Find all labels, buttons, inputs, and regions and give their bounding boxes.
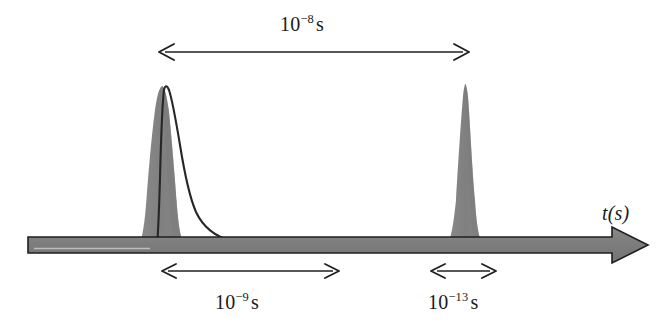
interval-pulse-width-label: 10−13s xyxy=(428,292,478,312)
first-pulse-outline-curve xyxy=(157,86,320,245)
interval-separation-label: 10−8s xyxy=(280,14,324,34)
interval-separation-arrow xyxy=(159,44,469,60)
interval-separation-unit: s xyxy=(316,13,324,35)
second-pulse-fill xyxy=(446,84,484,244)
time-axis-bar xyxy=(28,227,648,263)
interval-pulse-width-unit: s xyxy=(470,291,478,313)
interval-decay-time-arrow xyxy=(162,264,339,278)
diagram-canvas xyxy=(0,0,664,331)
interval-pulse-width-arrow xyxy=(431,264,496,278)
interval-separation-mantissa: 10 xyxy=(280,13,300,35)
interval-separation-exponent: −8 xyxy=(300,12,314,26)
second-pulse xyxy=(446,84,484,244)
interval-decay-time-label: 10−9s xyxy=(215,292,259,312)
time-axis-label: t(s) xyxy=(602,203,629,223)
time-axis xyxy=(28,227,648,263)
interval-pulse-width-mantissa: 10 xyxy=(428,291,448,313)
timeline-diagram: 10−8s 10−9s 10−13s t(s) xyxy=(0,0,664,331)
interval-decay-time-exponent: −9 xyxy=(235,290,249,304)
interval-decay-time-unit: s xyxy=(251,291,259,313)
interval-pulse-width-exponent: −13 xyxy=(448,290,468,304)
interval-decay-time-mantissa: 10 xyxy=(215,291,235,313)
